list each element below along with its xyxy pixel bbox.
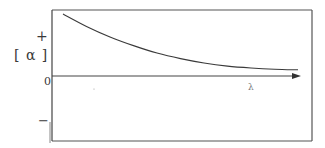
y-axis-label: [ α ] [14, 48, 48, 62]
y-zero-label: 0 [44, 76, 51, 87]
y-minus-label: − [38, 114, 49, 127]
scan-speck [93, 88, 94, 89]
x-axis-arrow-icon [292, 73, 301, 79]
y-plus-label: + [36, 29, 48, 43]
dispersion-curve [63, 14, 298, 70]
x-axis-label: λ [248, 83, 254, 92]
